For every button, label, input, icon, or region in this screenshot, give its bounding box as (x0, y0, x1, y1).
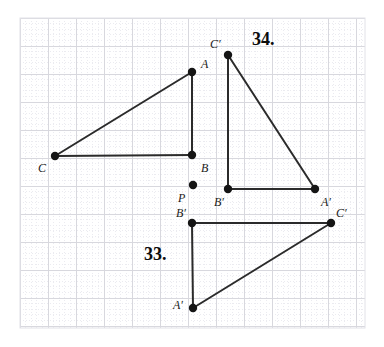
geometry-worksheet-figure: ABCC′B′A′B′C′A′P34.33. (0, 0, 384, 347)
vertex-label-A: A (201, 58, 208, 70)
problem-34-number: 34. (252, 30, 275, 48)
problem-33-number: 33. (144, 245, 167, 263)
vertex-label-Bp: B′ (214, 196, 224, 208)
vertex-label-Bp2: B′ (176, 207, 186, 219)
vertex-label-Ap2: A′ (173, 299, 183, 311)
point-label-P: P (178, 192, 185, 204)
vertex-label-Cp: C′ (210, 38, 221, 50)
vertex-label-Ap: A′ (321, 196, 331, 208)
graph-paper-grid (0, 0, 384, 347)
vertex-label-B: B (201, 162, 208, 174)
vertex-label-C: C (38, 162, 46, 174)
vertex-label-Cp2: C′ (336, 207, 347, 219)
